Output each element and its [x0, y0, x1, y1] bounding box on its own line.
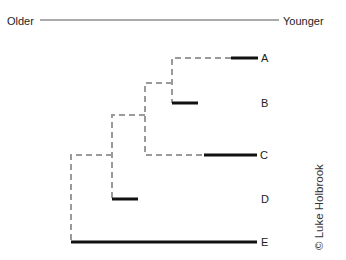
ghost-lineages: [71, 58, 231, 242]
taxon-label-e: E: [261, 237, 268, 248]
taxon-label-a: A: [261, 53, 268, 64]
taxon-label-d: D: [261, 194, 269, 205]
taxon-label-c: C: [260, 150, 268, 161]
copyright-notice: © Luke Holbrook: [313, 164, 325, 250]
observed-ranges: [71, 58, 258, 242]
cladogram-lines: [0, 0, 346, 260]
taxon-label-b: B: [261, 98, 268, 109]
